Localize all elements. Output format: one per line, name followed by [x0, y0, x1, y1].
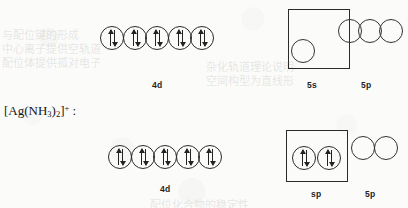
electron-arrow-up	[200, 30, 201, 46]
label-5p-top: 5p	[361, 80, 371, 90]
orbital-5p-1	[351, 136, 375, 160]
orbital-sp-2	[317, 146, 341, 170]
formula-colon: :	[69, 103, 76, 118]
electron-arrow-up	[302, 150, 303, 166]
electron-arrow-up	[155, 30, 156, 46]
electron-arrow-down	[212, 149, 213, 165]
electron-arrow-up	[208, 149, 209, 165]
bottom-4d-orbital-group	[108, 145, 221, 169]
electron-arrow-up	[141, 149, 142, 165]
label-5s-top: 5s	[307, 80, 317, 90]
electron-arrow-down	[145, 149, 146, 165]
orbital-4d-2	[131, 145, 155, 169]
orbital-4d-1	[100, 26, 124, 50]
electron-arrow-up	[327, 150, 328, 166]
orbital-sp-1	[292, 146, 316, 170]
orbital-4d-1	[108, 145, 132, 169]
bleed-through-text: 中心离子提供空轨道	[2, 40, 101, 56]
bleed-through-text: 空间构型为直线形	[206, 72, 294, 88]
orbital-5p-3	[379, 19, 403, 43]
electron-arrow-up	[118, 149, 119, 165]
electron-arrow-down	[306, 150, 307, 166]
electron-arrow-down	[204, 30, 205, 46]
electron-arrow-down	[159, 30, 160, 46]
formula-prefix: [Ag(NH	[4, 103, 47, 118]
orbital-4d-3	[145, 26, 169, 50]
orbital-4d-5	[190, 26, 214, 50]
bleed-through-text: 杂化轨道理论说明	[206, 58, 294, 74]
bleed-through-text: 与配位键的形成	[2, 26, 79, 42]
electron-arrow-down	[167, 149, 168, 165]
label-4d-top: 4d	[152, 80, 162, 90]
electron-arrow-up	[133, 30, 134, 46]
bleed-through-text: 配位化合物的稳定性	[150, 196, 249, 208]
electron-arrow-up	[186, 149, 187, 165]
electron-arrow-down	[331, 150, 332, 166]
orbital-5s-1	[291, 39, 315, 63]
bleed-through-text: 配位体提供孤对电子	[2, 54, 101, 70]
electron-arrow-down	[190, 149, 191, 165]
top-4d-orbital-group	[100, 26, 213, 50]
species-formula: [Ag(NH3)2]+ :	[4, 103, 76, 119]
label-4d-bottom: 4d	[160, 184, 170, 194]
electron-arrow-up	[178, 30, 179, 46]
orbital-5p-2	[374, 136, 398, 160]
orbital-4d-2	[123, 26, 147, 50]
orbital-4d-4	[168, 26, 192, 50]
orbital-4d-3	[153, 145, 177, 169]
electron-arrow-down	[137, 30, 138, 46]
electron-arrow-up	[110, 30, 111, 46]
orbital-4d-5	[198, 145, 222, 169]
electron-arrow-down	[114, 30, 115, 46]
label-sp-bottom: sp	[311, 189, 321, 199]
electron-arrow-down	[122, 149, 123, 165]
electron-arrow-up	[163, 149, 164, 165]
orbital-4d-4	[176, 145, 200, 169]
electron-arrow-down	[182, 30, 183, 46]
label-5p-bottom: 5p	[365, 189, 375, 199]
